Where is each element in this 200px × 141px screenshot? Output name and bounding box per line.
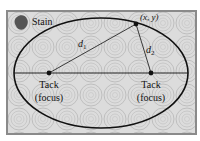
left-focus-label-line1: Tack	[39, 79, 58, 90]
left-focus-point	[47, 71, 52, 76]
right-focus-label-line1: Tack	[141, 79, 160, 90]
d2-subscript: 2	[151, 49, 155, 57]
ellipse-foci-diagram: Stain (x, y) d1 d2 Tack (focus) Tack (fo…	[0, 0, 200, 141]
corkboard	[7, 11, 196, 134]
point-label: (x, y)	[140, 12, 158, 22]
stain-label: Stain	[32, 16, 53, 27]
d1-subscript: 1	[83, 43, 87, 51]
left-focus-label-line2: (focus)	[35, 92, 63, 104]
right-focus-point	[149, 71, 154, 76]
curve-point	[134, 22, 139, 27]
right-focus-label-line2: (focus)	[137, 92, 165, 104]
